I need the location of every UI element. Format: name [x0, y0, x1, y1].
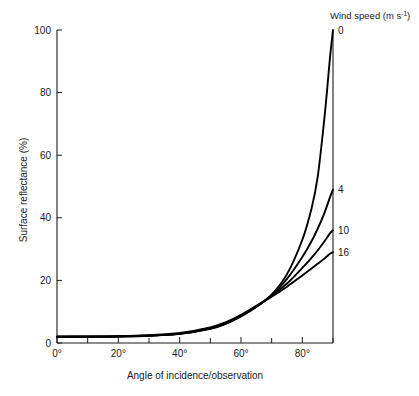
y-tick-label: 100	[34, 25, 51, 36]
x-axis-tick-labels: 0°20°40°60°80°	[52, 348, 310, 359]
page-caption-fragment	[0, 384, 419, 396]
x-tick-label: 0°	[52, 348, 62, 359]
curve-wind-0	[57, 30, 333, 337]
series-label-10: 10	[338, 225, 350, 236]
series-end-labels: 041016	[338, 25, 350, 258]
y-axis-title: Surface reflectance (%)	[18, 138, 29, 243]
x-tick-label: 40°	[172, 348, 187, 359]
legend-title-main: Wind speed (m s	[330, 10, 402, 21]
x-tick-label: 60°	[233, 348, 248, 359]
y-tick-label: 0	[45, 338, 51, 349]
x-axis-title: Angle of incidence/observation	[127, 370, 263, 381]
x-tick-label: 80°	[295, 348, 310, 359]
y-tick-label: 40	[40, 212, 52, 223]
axes-group	[57, 30, 333, 343]
data-curves-group	[57, 30, 333, 337]
series-label-0: 0	[338, 25, 344, 36]
y-tick-label: 60	[40, 150, 52, 161]
series-label-16: 16	[338, 247, 350, 258]
reflectance-line-chart: 020406080100 0°20°40°60°80° 041016 Angle…	[0, 0, 419, 396]
figure-container: 020406080100 0°20°40°60°80° 041016 Angle…	[0, 0, 419, 396]
y-axis-ticks	[57, 30, 62, 343]
legend-title: Wind speed (m s-1)	[330, 10, 410, 22]
series-label-4: 4	[338, 184, 344, 195]
legend-title-close-paren: )	[407, 10, 410, 21]
y-tick-label: 20	[40, 275, 52, 286]
x-tick-label: 20°	[111, 348, 126, 359]
y-axis-tick-labels: 020406080100	[34, 25, 51, 349]
x-axis-ticks	[57, 337, 333, 343]
y-tick-label: 80	[40, 87, 52, 98]
